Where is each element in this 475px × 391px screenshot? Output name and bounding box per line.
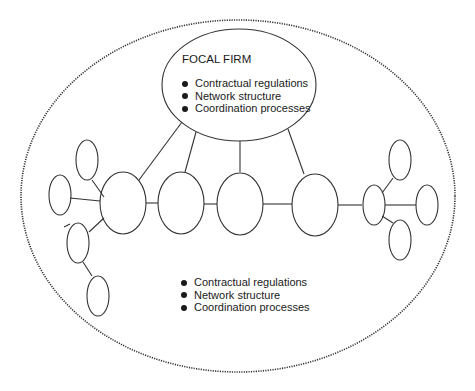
network-node-small — [49, 175, 71, 215]
network-list: Contractual regulations Network structur… — [180, 276, 310, 314]
network-diagram: FOCAL FIRM Contractual regulations Netwo… — [0, 0, 475, 391]
focal-firm-item: Coordination processes — [181, 102, 311, 115]
focal-firm-item: Contractual regulations — [181, 77, 311, 90]
network-node-small — [87, 276, 109, 316]
network-item: Contractual regulations — [180, 276, 310, 289]
network-node-small — [389, 140, 411, 180]
network-item: Network structure — [180, 289, 310, 302]
network-node-small — [363, 185, 385, 225]
focal-firm-title: FOCAL FIRM — [182, 53, 251, 66]
network-boundary — [21, 20, 455, 372]
focal-firm-item: Network structure — [181, 90, 311, 103]
network-item: Coordination processes — [180, 301, 310, 314]
network-node — [100, 172, 146, 234]
focal-firm-list: Contractual regulations Network structur… — [181, 77, 311, 115]
network-node — [292, 174, 338, 236]
network-node — [217, 173, 263, 235]
network-node-small — [416, 185, 438, 225]
network-node-small — [76, 140, 98, 180]
network-node-small — [67, 223, 89, 263]
network-node — [158, 172, 204, 234]
network-node-small — [389, 220, 411, 260]
